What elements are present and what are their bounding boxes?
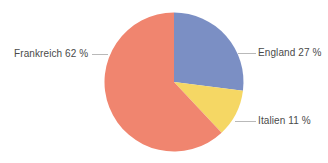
pie-label-frankreich: Frankreich 62 % [14,48,88,60]
pie-chart-canvas [0,0,328,163]
pie-slice-group [104,13,243,152]
pie-chart: Frankreich 62 % England 27 % Italien 11 … [0,0,328,163]
leader-line-england [238,53,256,54]
pie-slice-england [174,13,244,91]
leader-line-italien [235,121,256,122]
leader-line-frankreich [92,54,108,55]
pie-label-italien: Italien 11 % [258,115,311,127]
pie-label-england: England 27 % [258,47,321,59]
